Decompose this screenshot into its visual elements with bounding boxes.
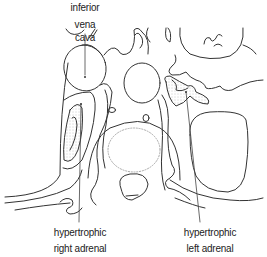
left-adrenal-label: hypertrophic left adrenal [178,226,243,255]
lower-features [60,198,82,214]
right-adrenal-pointer-dot [80,103,82,105]
right-body-wall-lower [15,203,70,210]
stomach [180,28,244,59]
left-adrenal-label-line2: left adrenal [178,242,243,255]
small-vessel-2 [143,115,149,122]
anatomical-diagram [0,0,267,257]
vertebral-body-dotted [108,128,160,172]
left-adrenal-label-line1: hypertrophic [178,226,243,239]
aorta [124,63,160,103]
stomach-tail [243,45,256,54]
upper-squiggle-1 [135,33,143,48]
ivc-pointer-dot [84,76,86,78]
right-adrenal-label: hypertrophic right adrenal [48,226,113,255]
right-body-wall [5,63,68,197]
ivc-label: inferior vena cava [64,1,105,44]
spinal-canal [120,174,148,200]
spinal-canal-detail [126,195,138,196]
ivc-label-line2: vena cava [64,18,105,44]
left-adrenal-pointer-dot [185,91,187,93]
right-adrenal-label-line2: right adrenal [48,242,113,255]
left-kidney [190,112,248,192]
ivc-label-line1: inferior [64,1,105,14]
left-crus-2 [158,100,165,190]
right-adrenal [64,104,83,161]
upper-squiggle-2 [166,28,171,42]
right-crus-2 [103,90,108,168]
stomach-rugae [204,34,222,46]
upper-mid-contour [104,28,148,55]
right-adrenal-label-line1: hypertrophic [48,226,113,239]
right-body-wall-inner [5,170,82,203]
